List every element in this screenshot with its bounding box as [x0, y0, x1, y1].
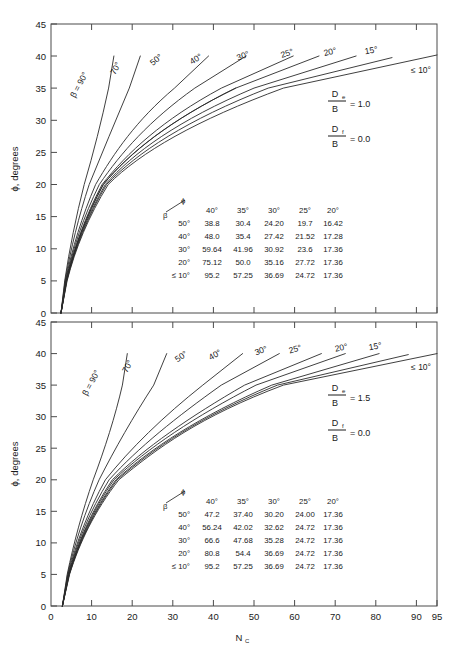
table-cell: 41.96	[233, 245, 253, 254]
curve-label-beta-90: β = 90°	[68, 70, 90, 99]
table-cell: 27.42	[264, 232, 284, 241]
curve-label-beta-90: β = 90°	[80, 368, 102, 397]
table-cell: 30.4	[235, 219, 251, 228]
y-tick-label: 10	[35, 243, 46, 254]
annotation-df-b-bottom: D f B = 0.0	[328, 418, 370, 443]
table-row: 40° 56.24 42.02 32.62 24.72 17.36	[178, 523, 343, 532]
data-table-bottom: ϕ β 40° 35° 30° 25° 20° 50° 47.2 37.40 3…	[163, 487, 343, 571]
table-cell: 17.36	[323, 258, 343, 267]
data-table-top: ϕ β 40° 35° 30° 25° 20° 50° 38.8 30.4 24…	[163, 196, 343, 280]
table-cell: 17.36	[323, 510, 343, 519]
annot-value: = 0.0	[350, 428, 370, 438]
annot-denominator: B	[332, 398, 338, 408]
x-tick-label: 50	[249, 611, 260, 622]
y-axis-ticks-top	[51, 24, 57, 313]
table-cell: 24.72	[295, 523, 315, 532]
annotation-df-b-top: D f B = 0.0	[328, 124, 370, 149]
table-cell: 47.68	[233, 536, 253, 545]
curve-label-25: 25°	[287, 342, 302, 355]
table-cell: 38.8	[204, 219, 219, 228]
y-tick-label: 0	[41, 601, 46, 612]
table-cell: 59.64	[202, 245, 222, 254]
annot-value: = 1.5	[350, 393, 370, 403]
x-tick-label: 0	[48, 611, 53, 622]
table-cell: 16.42	[323, 219, 343, 228]
table-cell: 23.6	[297, 245, 312, 254]
table-cell: 21.52	[295, 232, 315, 241]
annot-numerator: D	[332, 89, 339, 99]
annotation-de-b-top: D e B = 1.0	[328, 89, 370, 114]
table-col-header: 20°	[327, 206, 339, 215]
y-tick-label: 15	[35, 211, 46, 222]
curve-label-30: 30°	[235, 49, 251, 63]
table-cell: 30.92	[264, 245, 284, 254]
table-cell: 47.2	[204, 510, 219, 519]
table-row-label: 20°	[178, 549, 190, 558]
y-tick-label: 45	[35, 19, 46, 30]
table-row-label: ≤ 10°	[172, 271, 190, 280]
annot-numerator: D	[332, 418, 339, 428]
table-row: 50° 38.8 30.4 24.20 19.7 16.42	[178, 219, 343, 228]
table-col-header: 40°	[206, 497, 218, 506]
x-axis-tick-labels: 0 10 20 30 40 50 60 70 80 90 95	[48, 611, 442, 622]
table-cell: 57.25	[233, 271, 253, 280]
table-cell: 37.40	[233, 510, 253, 519]
table-cell: 48.0	[204, 232, 220, 241]
table-cell: 24.72	[295, 549, 315, 558]
x-tick-label: 10	[86, 611, 97, 622]
x-axis-title-main: N	[236, 632, 243, 643]
y-tick-label: 35	[35, 83, 46, 94]
table-row: 30° 59.64 41.96 30.92 23.6 17.36	[178, 245, 343, 254]
table-cell: 17.36	[323, 245, 343, 254]
table-row: 30° 66.6 47.68 35.28 24.72 17.36	[178, 536, 343, 545]
y-tick-label: 25	[35, 147, 46, 158]
curve-label-40: 40°	[207, 347, 223, 362]
table-cell: 17.36	[323, 562, 343, 571]
y-tick-label: 35	[35, 380, 46, 391]
table-cell: 17.36	[323, 536, 343, 545]
y-tick-label: 30	[35, 411, 46, 422]
table-cell: 80.8	[204, 549, 219, 558]
curve-label-le-10: ≤ 10°	[411, 65, 431, 75]
curve-label-50: 50°	[148, 52, 164, 68]
panel-bottom: 0 5 10 15 20 25 30 35 40 45	[9, 317, 442, 645]
table-cell: 36.69	[264, 549, 284, 558]
curve-label-70: 70°	[120, 358, 135, 374]
curve-label-25: 25°	[279, 46, 294, 59]
annot-numerator-sub: e	[342, 388, 346, 394]
table-cell: 35.4	[235, 232, 251, 241]
curve-label-15: 15°	[364, 44, 378, 56]
curve-label-40: 40°	[188, 51, 204, 66]
table-cell: 24.20	[264, 219, 284, 228]
y-tick-label: 25	[35, 443, 46, 454]
curve-label-20: 20°	[334, 341, 349, 353]
annot-value: = 1.0	[350, 99, 370, 109]
table-row: ≤ 10° 95.2 57.25 36.69 24.72 17.36	[172, 562, 343, 571]
annotation-de-b-bottom: D e B = 1.5	[328, 383, 370, 408]
annot-numerator: D	[332, 124, 339, 134]
table-cell: 24.72	[295, 536, 315, 545]
table-col-header: 25°	[299, 497, 311, 506]
table-corner-slash	[166, 200, 185, 212]
y-axis-title-bottom: ϕ, degrees	[9, 441, 20, 486]
table-row-label: 50°	[178, 219, 190, 228]
x-tick-label: 20	[127, 611, 138, 622]
annot-denominator: B	[332, 139, 338, 149]
y-tick-label: 40	[35, 348, 46, 359]
y-tick-label: 10	[35, 537, 46, 548]
table-col-header: 35°	[237, 497, 249, 506]
y-tick-label: 20	[35, 179, 46, 190]
table-cell: 27.72	[295, 258, 315, 267]
table-cell: 17.36	[323, 549, 343, 558]
y-axis-tick-labels-bottom: 0 5 10 15 20 25 30 35 40 45	[35, 317, 46, 612]
table-cell: 36.69	[264, 271, 284, 280]
table-cell: 24.72	[295, 562, 315, 571]
annot-numerator-sub: f	[342, 129, 344, 135]
table-row: 20° 80.8 54.4 36.69 24.72 17.36	[178, 549, 343, 558]
x-tick-label: 60	[289, 611, 300, 622]
y-tick-label: 40	[35, 51, 46, 62]
table-corner-row-label: β	[163, 211, 168, 220]
table-cell: 75.12	[202, 258, 222, 267]
table-col-header: 35°	[237, 206, 249, 215]
table-cell: 30.20	[264, 510, 284, 519]
